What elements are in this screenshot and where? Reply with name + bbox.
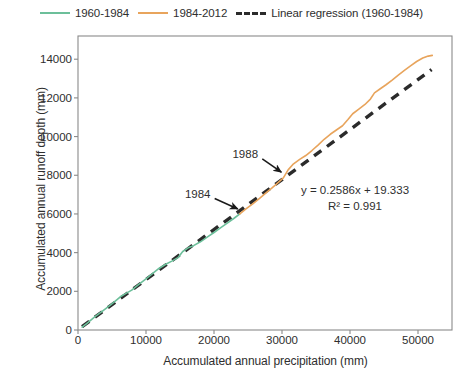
double-mass-curve-figure: 1960-1984 1984-2012 Linear regression (1…: [0, 0, 463, 375]
r-squared-text: R² = 0.991: [328, 200, 382, 212]
annotation-label: 1988: [232, 148, 258, 160]
annotation-arrow: [215, 199, 238, 209]
regression-equation-annotation: y = 0.2586x + 19.333R² = 0.991: [301, 184, 409, 212]
plot-area: 19841988 y = 0.2586x + 19.333R² = 0.991: [0, 0, 463, 375]
plot-frame: [78, 36, 452, 330]
annotation-label: 1984: [185, 188, 211, 200]
equation-text: y = 0.2586x + 19.333: [301, 184, 409, 196]
chart-annotations: 19841988: [185, 148, 281, 209]
annotation-arrow: [262, 159, 281, 172]
